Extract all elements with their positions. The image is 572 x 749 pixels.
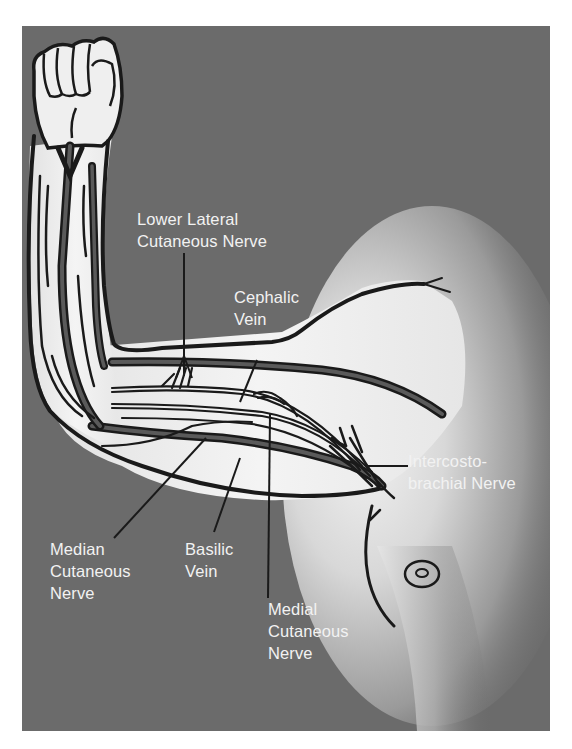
label-line: Cutaneous (268, 622, 349, 640)
label-line: brachial Nerve (408, 474, 516, 492)
label-line: Cephalic (234, 288, 299, 306)
label-basilic-vein: BasilicVein (185, 538, 233, 582)
label-intercostobrachial-nerve: Intercosto-brachial Nerve (408, 450, 516, 494)
label-line: Median (50, 540, 105, 558)
label-medial-cutaneous-nerve: MedialCutaneousNerve (268, 598, 349, 664)
forearm (29, 136, 122, 451)
label-line: Medial (268, 600, 317, 618)
label-line: Basilic (185, 540, 233, 558)
label-cephalic-vein: CephalicVein (234, 286, 299, 330)
label-line: Nerve (50, 584, 95, 602)
fist (34, 38, 122, 148)
label-line: Cutaneous (50, 562, 131, 580)
figure-panel: Lower LateralCutaneous Nerve CephalicVei… (22, 26, 550, 731)
label-lower-lateral-cutaneous-nerve: Lower LateralCutaneous Nerve (137, 208, 267, 252)
label-line: Nerve (268, 644, 313, 662)
label-line: Intercosto- (408, 452, 487, 470)
label-median-cutaneous-nerve: MedianCutaneousNerve (50, 538, 131, 604)
label-line: Cutaneous Nerve (137, 232, 267, 250)
label-line: Vein (234, 310, 267, 328)
label-line: Lower Lateral (137, 210, 238, 228)
label-line: Vein (185, 562, 218, 580)
